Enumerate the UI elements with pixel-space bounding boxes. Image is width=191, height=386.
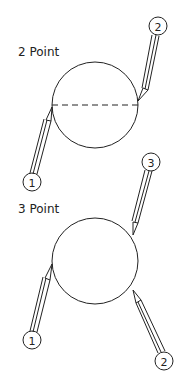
callout-1: 1 [23,264,52,349]
circle-point-diagram: 2 Point 1 2 3 Point [0,0,191,386]
callout-2: 2 [138,17,167,101]
callout-number: 1 [29,177,36,190]
panel-title: 2 Point [18,45,60,59]
panel-3-point: 3 Point 1 2 3 [18,153,173,370]
pencil-tip-icon [45,264,52,280]
pencil-tip-icon [138,88,148,101]
callout-number: 1 [29,335,36,348]
pencil-tip-icon [46,107,52,121]
callout-number: 2 [161,356,168,369]
callout-1: 1 [23,107,52,191]
panel-2-point: 2 Point 1 2 [18,17,167,191]
callout-number: 2 [155,21,162,34]
pencil-tip-icon [133,290,141,303]
callout-2: 2 [133,290,173,370]
circle-shape [52,218,138,304]
panel-title: 3 Point [18,202,60,216]
callout-number: 3 [148,157,155,170]
callout-3: 3 [132,153,160,235]
pencil-tip-icon [133,222,138,235]
